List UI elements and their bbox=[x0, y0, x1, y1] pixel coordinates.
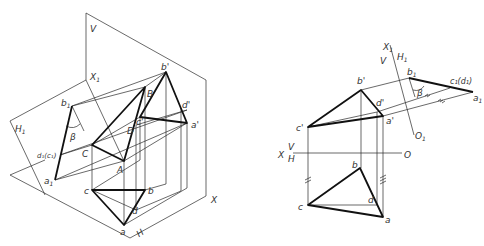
label-beta-left: β bbox=[69, 132, 76, 142]
label-b1: b1 bbox=[61, 98, 71, 109]
label-o-right: O bbox=[404, 150, 411, 160]
triangle-h-projection-right bbox=[308, 168, 383, 217]
label-D: D bbox=[127, 126, 134, 136]
label-b-right: b bbox=[352, 160, 358, 170]
label-x1-right: X1 bbox=[382, 42, 393, 53]
label-h1-right: H1 bbox=[397, 52, 408, 63]
label-h1: H1 bbox=[15, 124, 26, 135]
label-d-right: d bbox=[368, 195, 374, 205]
label-v-aux: V bbox=[380, 56, 387, 66]
label-c: c bbox=[84, 186, 89, 196]
label-d1c1: d₁(c₁) bbox=[37, 152, 57, 160]
triangle-v-projection-right bbox=[308, 90, 383, 127]
label-a-prime: a' bbox=[191, 120, 199, 130]
label-b-prime: b' bbox=[161, 62, 169, 72]
label-b: b bbox=[148, 186, 154, 196]
label-v-right: V bbox=[288, 142, 295, 152]
label-h-right: H bbox=[288, 154, 295, 164]
label-d-prime: d' bbox=[182, 100, 190, 110]
label-o1: O1 bbox=[415, 131, 426, 142]
label-c-prime: c' bbox=[136, 117, 143, 127]
label-x-right: X bbox=[277, 150, 285, 160]
label-A: A bbox=[116, 165, 123, 175]
label-a1-right: a1 bbox=[473, 93, 482, 104]
label-B: B bbox=[147, 89, 153, 99]
projection-diagram: V X1 H1 b1 β d₁(c₁) a1 b' B d' a' c' D C… bbox=[0, 0, 484, 246]
label-a1: a1 bbox=[44, 176, 53, 187]
label-b-prime-right: b' bbox=[357, 76, 365, 86]
label-beta-right: β bbox=[416, 88, 423, 98]
label-a-right: a bbox=[385, 215, 391, 225]
label-x1: X1 bbox=[89, 72, 100, 83]
label-h: H bbox=[134, 227, 145, 239]
label-a-prime-right: a' bbox=[386, 116, 394, 126]
label-c-prime-right: c' bbox=[296, 123, 303, 133]
right-orthographic-view: X1 V H1 b1 β c₁(d₁) a1 O1 b' d' a' c' X … bbox=[277, 42, 482, 225]
label-x: X bbox=[210, 195, 218, 205]
label-b1-right: b1 bbox=[407, 67, 417, 78]
label-v: V bbox=[90, 24, 97, 34]
label-d-prime-right: d' bbox=[376, 98, 384, 108]
label-a: a bbox=[120, 227, 126, 237]
label-c1d1: c₁(d₁) bbox=[450, 77, 472, 86]
h1-h-fold bbox=[10, 160, 45, 175]
label-c-right: c bbox=[298, 202, 303, 212]
h1-edge-view bbox=[55, 106, 72, 180]
label-C: C bbox=[82, 149, 89, 159]
label-d: d bbox=[132, 206, 138, 216]
left-isometric-view: V X1 H1 b1 β d₁(c₁) a1 b' B d' a' c' D C… bbox=[10, 13, 218, 239]
